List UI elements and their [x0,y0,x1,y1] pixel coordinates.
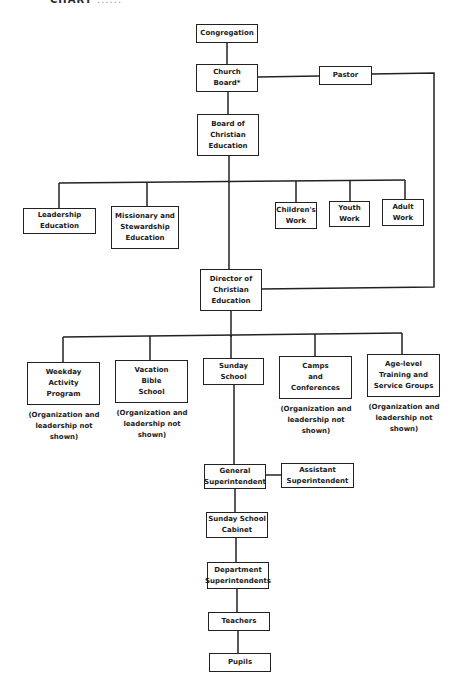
node-adult-work: Adult Work [382,199,424,226]
note-weekday: (Organization and leadership not shown) [22,410,106,443]
node-department-superintendents: Department Superintendents [207,562,269,589]
node-church-board: Church Board* [196,64,258,92]
node-youth-work: Youth Work [329,201,370,227]
node-director-christian-education: Director of Christian Education [200,269,262,311]
node-missionary-stewardship-education: Missionary and Stewardship Education [111,206,179,249]
note-vacation: (Organization and leadership not shown) [110,408,194,441]
node-general-superintendent: General Superintendent [204,464,266,489]
node-sunday-school: Sunday School [203,358,264,385]
node-weekday-activity-program: Weekday Activity Program [27,362,100,405]
node-pastor: Pastor [319,66,372,85]
note-age-level: (Organization and leadership not shown) [362,402,446,435]
node-assistant-superintendent: Assistant Superintendent [281,463,354,488]
node-age-level-training: Age-level Training and Service Groups [367,354,440,397]
node-pupils: Pupils [209,653,271,672]
node-sunday-school-cabinet: Sunday School Cabinet [206,512,268,538]
node-board-christian-education: Board of Christian Education [197,114,259,156]
node-congregation: Congregation [196,24,258,43]
node-vacation-bible-school: Vacation Bible School [115,360,188,403]
node-camps-conferences: Camps and Conferences [279,356,352,399]
node-leadership-education: Leadership Education [23,208,96,234]
node-childrens-work: Children's Work [275,202,317,229]
note-camps: (Organization and leadership not shown) [274,404,358,437]
node-teachers: Teachers [208,612,270,631]
